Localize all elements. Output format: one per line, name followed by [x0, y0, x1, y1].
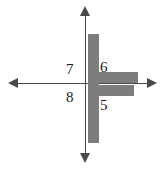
quadrant-label-lower-right: 5 — [100, 98, 108, 113]
shape-lower-right-arm — [88, 85, 134, 96]
x-axis-right-arrow-icon — [147, 78, 157, 88]
y-axis-up-arrow-icon — [80, 6, 90, 16]
y-axis-down-arrow-icon — [80, 153, 90, 163]
quadrant-label-lower-left: 8 — [66, 90, 74, 105]
shape-upper-right-arm — [88, 72, 138, 83]
x-axis-line — [14, 83, 152, 84]
quadrant-label-upper-left: 7 — [66, 62, 74, 77]
x-axis-left-arrow-icon — [8, 78, 18, 88]
y-axis-line — [85, 11, 86, 159]
quadrant-label-upper-right: 6 — [100, 60, 108, 75]
coordinate-plane-diagram: 7 6 8 5 — [0, 0, 165, 169]
